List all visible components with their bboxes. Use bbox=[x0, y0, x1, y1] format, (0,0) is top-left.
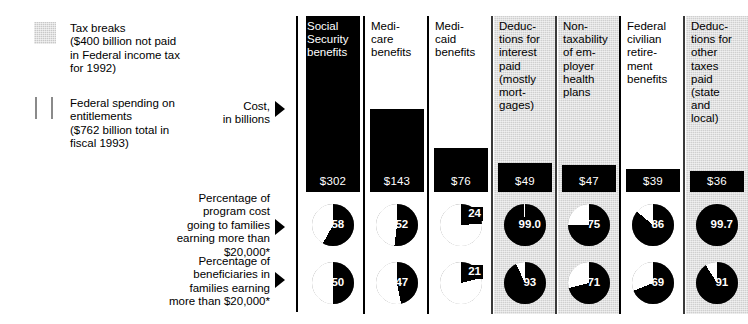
pie-value-label: 93 bbox=[523, 277, 536, 289]
bar-zone: $143 bbox=[370, 16, 424, 192]
legend-and-captions-panel: Tax breaks ($400 billion not paid in Fed… bbox=[0, 0, 296, 324]
bar-zone: $36 bbox=[690, 16, 744, 192]
percent-program-cost-pie-cell: 75 bbox=[558, 204, 620, 246]
row-caption-cost: Cost, in billions bbox=[60, 100, 270, 127]
gray-square-swatch-icon bbox=[34, 22, 56, 44]
row-caption-percent-program-cost: Percentage of program cost going to fami… bbox=[60, 192, 270, 259]
pie-chart: 24 bbox=[440, 204, 482, 246]
percent-program-cost-pie-cell: 99.0 bbox=[494, 204, 556, 246]
pie-chart: 99.0 bbox=[504, 204, 546, 246]
pie-chart: 58 bbox=[312, 204, 354, 246]
bar-zone: $302 bbox=[306, 16, 360, 192]
cost-bar-label: $143 bbox=[370, 175, 424, 187]
entitlements-and-tax-breaks-chart: $302Social Security benefits5850$143Medi… bbox=[302, 16, 742, 314]
cost-bar-label: $39 bbox=[626, 175, 680, 187]
chart-column-federal-civilian-retirement: $39Federal civilian retire- ment benefit… bbox=[622, 16, 684, 314]
cost-bar: $36 bbox=[690, 171, 744, 192]
row-caption-percent-beneficiaries: Percentage of beneficiaries in families … bbox=[60, 255, 270, 309]
cost-bar-label: $49 bbox=[498, 175, 552, 187]
pie-chart: 93 bbox=[504, 262, 546, 304]
cost-bar: $76 bbox=[434, 148, 488, 192]
caret-right-icon bbox=[275, 101, 285, 117]
chart-column-social-security: $302Social Security benefits5850 bbox=[302, 16, 364, 314]
chart-column-interest-deductions: $49Deduc- tions for interest paid (mostl… bbox=[494, 16, 556, 314]
pie-chart: 91 bbox=[696, 262, 738, 304]
pie-chart: 47 bbox=[376, 262, 418, 304]
percent-beneficiaries-pie-cell: 47 bbox=[366, 262, 428, 304]
pie-value-label: 86 bbox=[651, 219, 664, 231]
cost-bar: $143 bbox=[370, 109, 424, 192]
cost-bar-label: $36 bbox=[690, 175, 744, 187]
chart-column-medicare: $143Medi- care benefits5247 bbox=[366, 16, 428, 314]
pie-chart: 69 bbox=[632, 262, 674, 304]
pie-chart: 52 bbox=[376, 204, 418, 246]
panel-divider bbox=[296, 16, 298, 312]
bar-zone: $39 bbox=[626, 16, 680, 192]
bar-zone: $49 bbox=[498, 16, 552, 192]
percent-beneficiaries-pie-cell: 93 bbox=[494, 262, 556, 304]
percent-program-cost-pie-cell: 52 bbox=[366, 204, 428, 246]
cost-bar: $302 bbox=[306, 16, 360, 192]
cost-bar: $49 bbox=[498, 163, 552, 192]
cost-bar: $47 bbox=[562, 165, 616, 192]
percent-beneficiaries-pie-cell: 21 bbox=[430, 262, 492, 304]
white-bars-swatch-icon bbox=[34, 97, 56, 119]
percent-program-cost-pie-cell: 24 bbox=[430, 204, 492, 246]
percent-program-cost-pie-cell: 58 bbox=[302, 204, 364, 246]
pie-value-label: 99.0 bbox=[519, 219, 541, 231]
pie-value-label: 52 bbox=[395, 219, 408, 231]
pie-value-label: 69 bbox=[651, 277, 664, 289]
percent-beneficiaries-pie-cell: 50 bbox=[302, 262, 364, 304]
pie-value-label: 71 bbox=[587, 277, 600, 289]
pie-chart: 71 bbox=[568, 262, 610, 304]
pie-value-label: 47 bbox=[395, 277, 408, 289]
caret-right-icon bbox=[275, 219, 285, 235]
percent-beneficiaries-pie-cell: 91 bbox=[686, 262, 748, 304]
chart-column-medicaid: $76Medi- caid benefits2421 bbox=[430, 16, 492, 314]
percent-program-cost-pie-cell: 99.7 bbox=[686, 204, 748, 246]
bar-zone: $47 bbox=[562, 16, 616, 192]
cost-bar-label: $302 bbox=[306, 175, 360, 187]
percent-beneficiaries-pie-cell: 71 bbox=[558, 262, 620, 304]
pie-chart: 21 bbox=[440, 262, 482, 304]
pie-value-label: 91 bbox=[715, 277, 728, 289]
pie-chart: 86 bbox=[632, 204, 674, 246]
pie-value-label: 99.7 bbox=[711, 219, 733, 231]
legend-item-label: Tax breaks ($400 billion not paid in Fed… bbox=[70, 22, 180, 76]
pie-value-label: 58 bbox=[331, 219, 344, 231]
cost-bar-label: $47 bbox=[562, 175, 616, 187]
chart-column-other-taxes-deductions: $36Deduc- tions for other taxes paid (st… bbox=[686, 16, 748, 314]
pie-value-label: 75 bbox=[587, 219, 600, 231]
pie-chart: 75 bbox=[568, 204, 610, 246]
percent-program-cost-pie-cell: 86 bbox=[622, 204, 684, 246]
pie-value-label: 21 bbox=[466, 265, 483, 279]
bar-zone: $76 bbox=[434, 16, 488, 192]
pie-chart: 99.7 bbox=[696, 204, 738, 246]
cost-bar: $39 bbox=[626, 169, 680, 192]
caret-right-icon bbox=[275, 272, 285, 288]
percent-beneficiaries-pie-cell: 69 bbox=[622, 262, 684, 304]
chart-column-employer-health: $47Non- taxability of em- ployer health … bbox=[558, 16, 620, 314]
pie-value-label: 24 bbox=[466, 207, 483, 221]
legend-item-tax-breaks: Tax breaks ($400 billion not paid in Fed… bbox=[34, 22, 180, 76]
pie-chart: 50 bbox=[312, 262, 354, 304]
cost-bar-label: $76 bbox=[434, 175, 488, 187]
pie-value-label: 50 bbox=[331, 277, 344, 289]
